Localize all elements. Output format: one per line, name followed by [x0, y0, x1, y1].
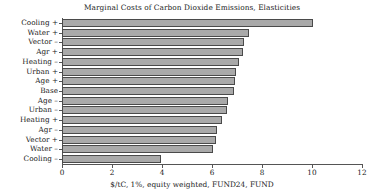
- x-tick-label: 4: [150, 168, 174, 177]
- y-tick-mark: [59, 101, 62, 102]
- y-tick-label: Base: [40, 87, 58, 95]
- bar: [62, 58, 239, 66]
- bar: [62, 87, 234, 95]
- y-tick-label: Urban –: [29, 106, 58, 114]
- y-tick-mark: [59, 110, 62, 111]
- bar: [62, 106, 227, 114]
- bar: [62, 29, 249, 37]
- x-axis-label: $/tC, 1%, equity weighted, FUND24, FUND: [0, 180, 384, 189]
- bar: [62, 116, 222, 124]
- bar: [62, 97, 228, 105]
- x-tick-label: 6: [200, 168, 224, 177]
- bar: [62, 126, 217, 134]
- bar: [62, 155, 161, 163]
- y-tick-label: Vector –: [28, 38, 58, 46]
- x-tick-label: 8: [250, 168, 274, 177]
- bar-row: [62, 97, 362, 105]
- bar: [62, 38, 244, 46]
- y-tick-mark: [59, 62, 62, 63]
- y-tick-label: Vector +: [26, 136, 58, 144]
- bar-row: [62, 87, 362, 95]
- y-tick-label: Urban +: [26, 68, 58, 76]
- y-tick-label: Cooling –: [24, 155, 58, 163]
- bar: [62, 145, 213, 153]
- y-tick-mark: [59, 81, 62, 82]
- y-tick-mark: [59, 72, 62, 73]
- bar-row: [62, 68, 362, 76]
- y-tick-label: Age +: [35, 77, 58, 85]
- y-tick-label: Cooling +: [21, 19, 58, 27]
- y-tick-mark: [59, 52, 62, 53]
- bar-row: [62, 38, 362, 46]
- bar: [62, 19, 313, 27]
- bar-row: [62, 155, 362, 163]
- y-tick-mark: [59, 42, 62, 43]
- bar-row: [62, 48, 362, 56]
- bar-row: [62, 106, 362, 114]
- y-tick-mark: [59, 149, 62, 150]
- bar-row: [62, 116, 362, 124]
- y-tick-mark: [59, 120, 62, 121]
- x-tick-label: 10: [300, 168, 324, 177]
- x-tick-label: 12: [350, 168, 374, 177]
- bar: [62, 136, 216, 144]
- y-tick-mark: [59, 159, 62, 160]
- bar-row: [62, 77, 362, 85]
- bar-row: [62, 126, 362, 134]
- bar-row: [62, 136, 362, 144]
- y-tick-label: Water +: [28, 29, 58, 37]
- bar-row: [62, 58, 362, 66]
- x-tick-label: 0: [50, 168, 74, 177]
- y-tick-mark: [59, 140, 62, 141]
- y-tick-label: Age –: [38, 97, 58, 105]
- y-tick-label: Water –: [30, 145, 58, 153]
- y-tick-mark: [59, 33, 62, 34]
- chart-figure: Marginal Costs of Carbon Dioxide Emissio…: [0, 0, 384, 196]
- x-tick-label: 2: [100, 168, 124, 177]
- bar: [62, 68, 236, 76]
- y-tick-mark: [59, 23, 62, 24]
- y-tick-label: Agr +: [36, 48, 58, 56]
- plot-area: [62, 18, 362, 164]
- bar-row: [62, 145, 362, 153]
- chart-title: Marginal Costs of Carbon Dioxide Emissio…: [0, 3, 384, 12]
- y-tick-label: Heating –: [22, 58, 58, 66]
- y-tick-mark: [59, 91, 62, 92]
- bar: [62, 77, 235, 85]
- y-tick-label: Heating +: [20, 116, 58, 124]
- y-tick-label: Agr –: [39, 126, 58, 134]
- bar: [62, 48, 243, 56]
- y-tick-mark: [59, 130, 62, 131]
- bar-row: [62, 19, 362, 27]
- bar-row: [62, 29, 362, 37]
